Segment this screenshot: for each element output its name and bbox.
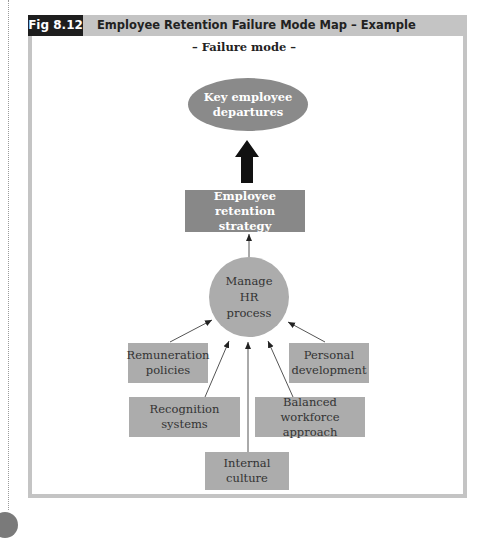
- node-text: Remuneration: [127, 348, 210, 363]
- strategy-node: Employee retentionstrategy: [185, 190, 305, 232]
- remuneration-node: Remunerationpolicies: [128, 343, 208, 383]
- node-text: policies: [127, 363, 210, 378]
- node-text: Balanced: [255, 395, 365, 410]
- hub-node: ManageHRprocess: [209, 257, 289, 337]
- node-text: process: [225, 305, 272, 321]
- personal-development-node: Personaldevelopment: [289, 343, 369, 383]
- node-text: workforce approach: [255, 410, 365, 440]
- failure-mode-node: Key employeedepartures: [188, 78, 308, 131]
- node-text: development: [291, 363, 366, 378]
- node-text: strategy: [185, 219, 305, 234]
- node-text: Recognition: [150, 402, 220, 417]
- node-text: Personal: [291, 348, 366, 363]
- internal-culture-node: Internalculture: [205, 452, 289, 490]
- recognition-node: Recognitionsystems: [129, 397, 240, 437]
- node-text: culture: [224, 471, 271, 486]
- node-text: systems: [150, 417, 220, 432]
- thick-up-arrow-icon: [235, 140, 259, 183]
- node-text: Internal: [224, 456, 271, 471]
- node-text: Key employee: [204, 90, 293, 105]
- node-text: departures: [204, 105, 293, 120]
- node-text: Employee retention: [185, 189, 305, 219]
- node-text: HR: [225, 289, 272, 305]
- balanced-workforce-node: Balancedworkforce approach: [255, 397, 365, 437]
- node-text: Manage: [225, 273, 272, 289]
